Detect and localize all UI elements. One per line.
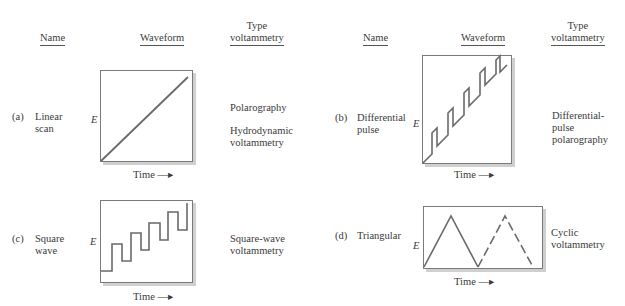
row-d-y-axis-label: E bbox=[413, 240, 419, 252]
header-waveform-left: Waveform bbox=[140, 32, 184, 46]
row-b-type-1: Differential- pulse polarography bbox=[552, 110, 608, 146]
header-name-right: Name bbox=[363, 32, 388, 46]
row-a-label: (a) bbox=[12, 111, 24, 123]
row-c-x-axis-label: Time —▸ bbox=[133, 290, 173, 302]
row-b-y-axis-label: E bbox=[413, 118, 419, 130]
linear-scan-waveform bbox=[100, 70, 196, 166]
row-d-type-1: Cyclic voltammetry bbox=[551, 227, 605, 251]
triangular-waveform bbox=[423, 206, 547, 273]
row-d-name: Triangular bbox=[357, 230, 401, 242]
header-type-left: Type voltammetry bbox=[230, 20, 284, 46]
row-b-label: (b) bbox=[335, 112, 347, 124]
square-wave-waveform bbox=[100, 200, 196, 286]
row-c-label: (c) bbox=[12, 233, 24, 245]
row-c-y-axis-label: E bbox=[90, 236, 96, 248]
row-d-x-axis-label: Time —▸ bbox=[454, 275, 494, 287]
row-c-name: Square wave bbox=[35, 233, 64, 257]
row-a-y-axis-label: E bbox=[91, 114, 97, 126]
row-b-name: Differential pulse bbox=[357, 112, 406, 136]
row-a-x-axis-label: Time —▸ bbox=[133, 168, 173, 180]
row-a-type-1: Polarography bbox=[230, 102, 287, 114]
header-name-left: Name bbox=[40, 32, 65, 46]
row-d-label: (d) bbox=[335, 230, 347, 242]
header-type-right: Type voltammetry bbox=[551, 20, 605, 46]
differential-pulse-waveform bbox=[422, 55, 517, 168]
row-c-type-1: Square-wave voltammetry bbox=[230, 233, 285, 257]
header-waveform-right: Waveform bbox=[461, 32, 505, 46]
row-a-type-2: Hydrodynamic voltammetry bbox=[230, 125, 293, 149]
row-b-x-axis-label: Time —▸ bbox=[454, 168, 494, 180]
row-a-name: Linear scan bbox=[35, 111, 62, 135]
